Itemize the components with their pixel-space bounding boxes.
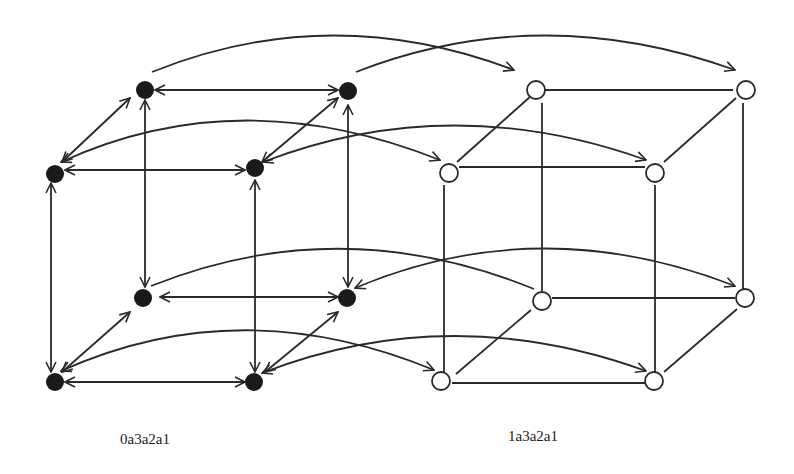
left-cube-edges bbox=[51, 90, 348, 382]
node-open bbox=[527, 81, 545, 99]
right-cube-nodes bbox=[432, 81, 755, 390]
diagram-graphic bbox=[0, 0, 794, 474]
node-filled bbox=[46, 165, 64, 183]
arc-H-h bbox=[262, 336, 646, 373]
hypercube-diagram: 0a3a2a1 1a3a2a1 bbox=[0, 0, 794, 474]
node-filled bbox=[245, 373, 263, 391]
node-filled bbox=[338, 289, 356, 307]
arc-G-g bbox=[61, 330, 434, 371]
node-filled bbox=[46, 373, 64, 391]
node-filled bbox=[136, 81, 154, 99]
cross-arcs bbox=[61, 35, 735, 373]
right-cube-label: 1a3a2a1 bbox=[508, 428, 558, 445]
arc-D-d bbox=[263, 125, 646, 162]
node-filled bbox=[246, 159, 264, 177]
arc-B-b bbox=[356, 35, 735, 72]
right-cube-edges bbox=[444, 90, 743, 383]
node-open bbox=[646, 164, 664, 182]
node-open bbox=[737, 81, 755, 99]
node-open bbox=[645, 372, 663, 390]
node-filled bbox=[339, 82, 357, 100]
arc-A-a bbox=[152, 35, 514, 72]
node-open bbox=[432, 372, 450, 390]
arc-E-e bbox=[151, 249, 534, 289]
node-filled bbox=[134, 289, 152, 307]
left-cube-label: 0a3a2a1 bbox=[120, 431, 170, 448]
node-open bbox=[440, 164, 458, 182]
node-open bbox=[736, 289, 754, 307]
node-open bbox=[533, 292, 551, 310]
arc-C-c bbox=[61, 120, 440, 162]
